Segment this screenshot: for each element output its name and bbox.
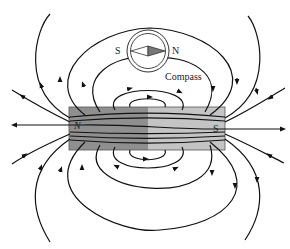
magnet-south-label: S: [213, 124, 219, 134]
compass-south-label: S: [115, 46, 121, 56]
compass-caption: Compass: [165, 72, 202, 82]
compass: [127, 30, 169, 72]
compass-north-label: N: [172, 46, 179, 56]
field-lines-graphic: [0, 0, 290, 249]
bar-magnet-field-diagram: S N Compass N S: [0, 0, 290, 249]
magnet-north-label: N: [74, 121, 81, 131]
